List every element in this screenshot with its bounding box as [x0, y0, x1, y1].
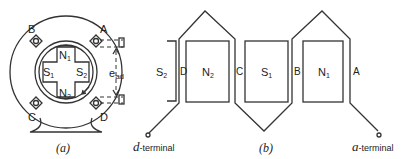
- pole-n2-text: N2: [202, 66, 214, 79]
- pole-s2-label: S2: [76, 66, 87, 79]
- diagram-canvas: B A C D N1 N2 S1 S2 ead (a) S2 N2 S1 N1 …: [0, 0, 403, 159]
- diagram-svg: B A C D N1 N2 S1 S2 ead (a) S2 N2 S1 N1 …: [0, 0, 403, 159]
- brush-a: [90, 35, 102, 47]
- conductor-d-label: D: [180, 66, 187, 77]
- brush-a-label: A: [100, 23, 108, 35]
- rotation-arrow-icon: [82, 87, 89, 94]
- brush-b: [30, 35, 42, 47]
- pole-n1-text: N1: [318, 66, 330, 79]
- conductor-c-label: C: [236, 66, 243, 77]
- brush-c-label: C: [28, 111, 36, 123]
- pole-s1-text: S1: [261, 66, 272, 79]
- conductor-b-label: B: [294, 66, 301, 77]
- pole-s2-text: S2: [156, 66, 167, 79]
- pole-n1-label: N1: [59, 49, 71, 62]
- caption-a: (a): [56, 141, 70, 155]
- brush-b-label: B: [28, 23, 35, 35]
- terminal-a-box: [119, 38, 124, 47]
- pole-s2-bracket: [167, 41, 176, 101]
- pole-n2-label: N2: [59, 87, 71, 100]
- machine-base: [30, 118, 102, 132]
- pole-s1-label: S1: [43, 66, 54, 79]
- caption-b: (b): [259, 141, 273, 155]
- d-terminal-label: d-terminal: [133, 139, 175, 154]
- a-terminal-dot[interactable]: [377, 133, 381, 137]
- winding-diagram: S2 N2 S1 N1 D C B A d-terminal a-termina…: [133, 11, 394, 155]
- conductor-a-label: A: [353, 66, 360, 77]
- brush-c: [30, 97, 42, 109]
- brush-d-label: D: [100, 111, 108, 123]
- machine-cross-section: B A C D N1 N2 S1 S2 ead (a): [10, 16, 124, 155]
- d-terminal-dot[interactable]: [146, 133, 150, 137]
- a-terminal-label: a-terminal: [352, 139, 394, 154]
